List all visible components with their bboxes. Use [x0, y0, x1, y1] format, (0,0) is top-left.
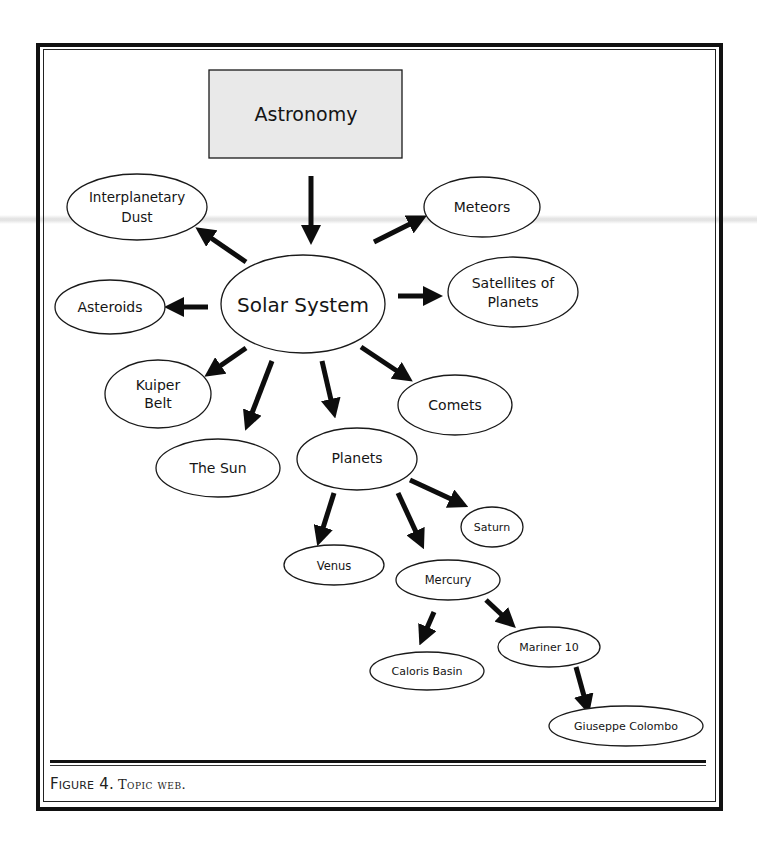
- arrow-solar-system-to-the-sun: [252, 361, 272, 413]
- node-comets: Comets: [398, 375, 512, 435]
- node-ellipse: [67, 174, 207, 240]
- arrow-solar-system-to-planets: [322, 361, 331, 400]
- node-label: The Sun: [188, 460, 246, 476]
- node-label-line2: Dust: [121, 209, 152, 225]
- node-label: Giuseppe Colombo: [574, 720, 678, 733]
- arrow-mariner-10-to-giuseppe-colombo: [576, 667, 584, 696]
- node-label: Meteors: [454, 199, 510, 215]
- caption-separator-thin: [50, 765, 706, 766]
- node-mariner-10: Mariner 10: [498, 627, 600, 667]
- figure-label: Figure 4.: [50, 775, 114, 793]
- node-ellipse: [448, 257, 578, 327]
- node-label: Astronomy: [255, 103, 358, 125]
- node-giuseppe-colombo: Giuseppe Colombo: [549, 706, 703, 746]
- node-solar-system: Solar System: [221, 255, 385, 353]
- arrow-solar-system-to-comets: [361, 347, 397, 371]
- node-label-line1: Kuiper: [136, 377, 181, 393]
- node-caloris-basin: Caloris Basin: [370, 652, 484, 690]
- node-label: Mariner 10: [519, 641, 579, 654]
- node-label-line1: Interplanetary: [89, 189, 185, 205]
- node-mercury: Mercury: [396, 560, 500, 600]
- node-label: Mercury: [425, 573, 472, 587]
- node-astronomy: Astronomy: [209, 70, 402, 158]
- node-label: Venus: [317, 559, 352, 573]
- arrow-planets-to-venus: [323, 493, 334, 528]
- node-satellites-of-planets: Satellites of Planets: [448, 257, 578, 327]
- node-saturn: Saturn: [461, 507, 523, 547]
- arrow-mercury-to-caloris-basin: [427, 612, 434, 628]
- node-label-line2: Belt: [144, 395, 172, 411]
- node-label: Caloris Basin: [391, 665, 462, 678]
- topic-web-diagram: Astronomy Solar System Interplanetary Du…: [0, 0, 757, 841]
- node-kuiper-belt: Kuiper Belt: [105, 360, 211, 428]
- arrow-planets-to-mercury: [398, 493, 416, 532]
- node-label-line2: Planets: [487, 294, 538, 310]
- arrow-solar-system-to-interplanetary-dust: [211, 238, 246, 262]
- node-label: Planets: [331, 450, 382, 466]
- arrow-planets-to-saturn: [410, 480, 451, 499]
- caption-separator-thick: [50, 760, 706, 763]
- arrow-mercury-to-mariner-10: [486, 600, 502, 615]
- node-planets: Planets: [297, 428, 417, 490]
- arrow-solar-system-to-kuiper-belt: [220, 348, 246, 366]
- node-interplanetary-dust: Interplanetary Dust: [67, 174, 207, 240]
- figure-caption: Figure 4.Topic web.: [50, 773, 186, 795]
- node-venus: Venus: [284, 545, 384, 585]
- node-label-line1: Satellites of: [472, 275, 556, 291]
- node-label: Asteroids: [77, 299, 142, 315]
- node-the-sun: The Sun: [156, 439, 280, 497]
- node-label: Saturn: [474, 521, 510, 534]
- node-meteors: Meteors: [424, 177, 540, 237]
- node-asteroids: Asteroids: [55, 280, 165, 334]
- node-label: Solar System: [237, 293, 369, 317]
- arrow-solar-system-to-meteors: [374, 224, 410, 242]
- figure-title: Topic web.: [118, 777, 186, 792]
- node-ellipse: [105, 360, 211, 428]
- node-label: Comets: [428, 397, 481, 413]
